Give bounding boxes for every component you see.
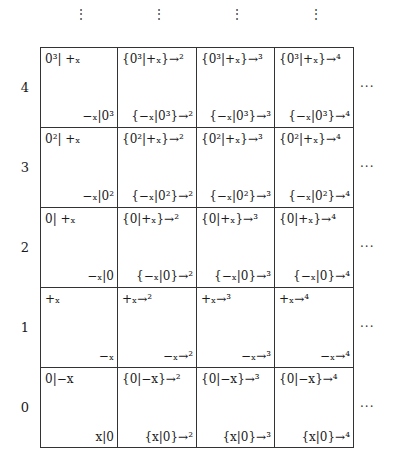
- grid-cell: {0|−x}→³ {x|0}→³: [197, 368, 275, 448]
- row-label-3: 3: [19, 160, 31, 175]
- cell-left-option: +ₓ→⁴: [279, 292, 309, 306]
- cell-left-option: {0²|+ₓ}→²: [122, 132, 184, 146]
- cell-right-option: −ₓ→⁴: [320, 349, 350, 363]
- cell-left-option: 0²| +ₓ: [45, 132, 80, 146]
- cell-right-option: −ₓ|0³: [82, 109, 114, 123]
- grid-row-1: +ₓ −ₓ +ₓ→² −ₓ→² +ₓ→³ −ₓ→³ +ₓ→⁴ −ₓ→⁴: [41, 288, 353, 368]
- cell-left-option: {0|+ₓ}→³: [201, 212, 258, 226]
- cell-right-option: {−ₓ|0²}→²: [131, 189, 193, 203]
- cell-right-option: {−ₓ|0³}→³: [209, 109, 271, 123]
- cell-right-option: x|0: [96, 430, 114, 444]
- cell-right-option: {−ₓ|0²}→⁴: [288, 189, 350, 203]
- grid-row-0: 0|−x x|0 {0|−x}→² {x|0}→² {0|−x}→³ {x|0}…: [41, 368, 353, 448]
- row-0-continuation-dots: ···: [360, 400, 374, 414]
- cell-right-option: {x|0}→³: [222, 430, 271, 444]
- cell-left-option: {0³|+ₓ}→²: [122, 52, 184, 66]
- cell-left-option: {0|−x}→²: [122, 372, 181, 386]
- game-grid: 0³| +ₓ −ₓ|0³ {0³|+ₓ}→² {−ₓ|0³}→² {0³|+ₓ}…: [40, 47, 354, 448]
- grid-cell: +ₓ→⁴ −ₓ→⁴: [275, 288, 353, 368]
- grid-cell: {0³|+ₓ}→⁴ {−ₓ|0³}→⁴: [275, 48, 353, 128]
- grid-cell: {0|+ₓ}→⁴ {−ₓ|0}→⁴: [275, 208, 353, 288]
- grid-cell: 0| +ₓ −ₓ|0: [41, 208, 118, 288]
- row-label-2: 2: [19, 240, 31, 255]
- cell-left-option: {0³|+ₓ}→³: [201, 52, 263, 66]
- row-label-0: 0: [19, 400, 31, 415]
- grid-cell: {0²|+ₓ}→³ {−ₓ|0²}→³: [197, 128, 275, 208]
- row-4-continuation-dots: ···: [360, 80, 374, 94]
- cell-left-option: {0³|+ₓ}→⁴: [279, 52, 341, 66]
- cell-left-option: {0|−x}→³: [201, 372, 260, 386]
- cell-left-option: 0³| +ₓ: [45, 52, 80, 66]
- cell-right-option: −ₓ|0²: [82, 189, 114, 203]
- cell-left-option: {0|+ₓ}→²: [122, 212, 179, 226]
- cell-left-option: {0²|+ₓ}→⁴: [279, 132, 341, 146]
- grid-cell: {0³|+ₓ}→³ {−ₓ|0³}→³: [197, 48, 275, 128]
- cell-left-option: 0|−x: [45, 372, 74, 386]
- grid-cell: +ₓ −ₓ: [41, 288, 118, 368]
- grid-row-2: 0| +ₓ −ₓ|0 {0|+ₓ}→² {−ₓ|0}→² {0|+ₓ}→³ {−…: [41, 208, 353, 288]
- row-label-1: 1: [19, 320, 31, 335]
- grid-cell: +ₓ→³ −ₓ→³: [197, 288, 275, 368]
- cell-right-option: {−ₓ|0³}→²: [131, 109, 193, 123]
- grid-cell: {0|−x}→² {x|0}→²: [118, 368, 197, 448]
- grid-cell: {0|+ₓ}→³ {−ₓ|0}→³: [197, 208, 275, 288]
- cell-right-option: {−ₓ|0²}→³: [209, 189, 271, 203]
- grid-cell: {0²|+ₓ}→² {−ₓ|0²}→²: [118, 128, 197, 208]
- column-2-continuation-dots: ⋮: [153, 12, 161, 17]
- row-2-continuation-dots: ···: [360, 240, 374, 254]
- row-label-4: 4: [19, 80, 31, 95]
- row-1-continuation-dots: ···: [360, 320, 374, 334]
- cell-left-option: {0²|+ₓ}→³: [201, 132, 263, 146]
- grid-cell: 0|−x x|0: [41, 368, 118, 448]
- cell-right-option: −ₓ|0: [87, 269, 114, 283]
- cell-right-option: {−ₓ|0}→²: [136, 269, 193, 283]
- cell-right-option: {x|0}→⁴: [301, 430, 350, 444]
- grid-cell: 0²| +ₓ −ₓ|0²: [41, 128, 118, 208]
- cell-right-option: {−ₓ|0}→³: [214, 269, 271, 283]
- grid-cell: {0³|+ₓ}→² {−ₓ|0³}→²: [118, 48, 197, 128]
- cell-left-option: +ₓ→³: [201, 292, 231, 306]
- row-3-continuation-dots: ···: [360, 160, 374, 174]
- cell-left-option: {0|−x}→⁴: [279, 372, 338, 386]
- cell-right-option: −ₓ→³: [241, 349, 271, 363]
- cell-right-option: {−ₓ|0³}→⁴: [288, 109, 350, 123]
- cell-left-option: +ₓ: [45, 292, 60, 306]
- cell-right-option: {x|0}→²: [144, 430, 193, 444]
- grid-cell: {0|−x}→⁴ {x|0}→⁴: [275, 368, 353, 448]
- cell-right-option: −ₓ: [99, 349, 114, 363]
- grid-cell: 0³| +ₓ −ₓ|0³: [41, 48, 118, 128]
- cell-left-option: {0|+ₓ}→⁴: [279, 212, 336, 226]
- grid-cell: {0|+ₓ}→² {−ₓ|0}→²: [118, 208, 197, 288]
- column-3-continuation-dots: ⋮: [231, 12, 239, 17]
- column-1-continuation-dots: ⋮: [75, 12, 83, 17]
- column-4-continuation-dots: ⋮: [310, 12, 318, 17]
- grid-cell: +ₓ→² −ₓ→²: [118, 288, 197, 368]
- grid-row-3: 0²| +ₓ −ₓ|0² {0²|+ₓ}→² {−ₓ|0²}→² {0²|+ₓ}…: [41, 128, 353, 208]
- cell-left-option: 0| +ₓ: [45, 212, 76, 226]
- grid-row-4: 0³| +ₓ −ₓ|0³ {0³|+ₓ}→² {−ₓ|0³}→² {0³|+ₓ}…: [41, 48, 353, 128]
- cell-right-option: −ₓ→²: [163, 349, 193, 363]
- cell-right-option: {−ₓ|0}→⁴: [293, 269, 350, 283]
- cell-left-option: +ₓ→²: [122, 292, 152, 306]
- grid-cell: {0²|+ₓ}→⁴ {−ₓ|0²}→⁴: [275, 128, 353, 208]
